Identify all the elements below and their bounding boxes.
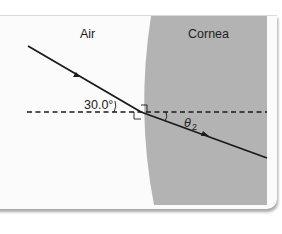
air-label: Air <box>80 27 95 41</box>
cornea-label: Cornea <box>188 27 229 41</box>
refracted-angle-symbol: θ <box>184 116 191 130</box>
incident-angle-arc <box>114 101 116 112</box>
refraction-diagram: Air Cornea 30.0° θ 2 <box>0 0 282 234</box>
right-angle-marker-bottom <box>134 112 141 119</box>
refracted-angle-subscript: 2 <box>192 122 197 132</box>
incident-angle-label: 30.0° <box>84 98 113 112</box>
cornea-region <box>144 16 267 205</box>
